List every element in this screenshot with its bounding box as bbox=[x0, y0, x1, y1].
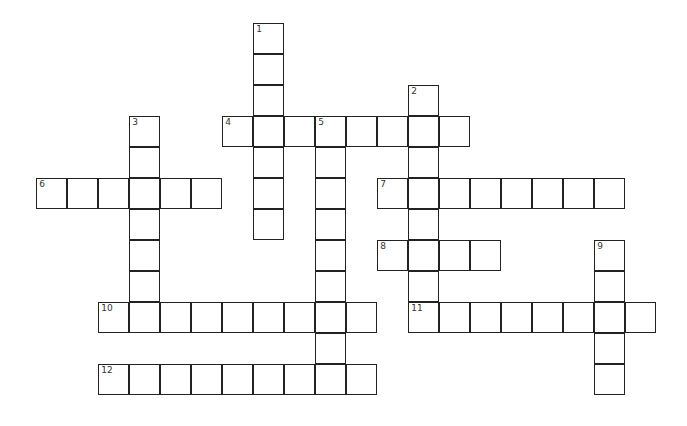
crossword-cell[interactable] bbox=[594, 364, 625, 395]
crossword-cell[interactable] bbox=[315, 240, 346, 271]
crossword-cell[interactable] bbox=[253, 147, 284, 178]
crossword-cell[interactable] bbox=[253, 209, 284, 240]
clue-number: 6 bbox=[39, 179, 45, 190]
clue-number: 10 bbox=[101, 303, 112, 314]
crossword-cell[interactable]: 1 bbox=[253, 23, 284, 54]
crossword-cell[interactable]: 3 bbox=[129, 116, 160, 147]
clue-number: 12 bbox=[101, 365, 112, 376]
crossword-cell[interactable] bbox=[439, 302, 470, 333]
crossword-cell[interactable] bbox=[253, 364, 284, 395]
crossword-cell[interactable] bbox=[439, 178, 470, 209]
crossword-cell[interactable] bbox=[315, 271, 346, 302]
crossword-cell[interactable] bbox=[160, 364, 191, 395]
crossword-cell[interactable] bbox=[532, 302, 563, 333]
crossword-cell[interactable]: 9 bbox=[594, 240, 625, 271]
crossword-cell[interactable] bbox=[501, 178, 532, 209]
crossword-cell[interactable] bbox=[439, 116, 470, 147]
clue-number: 2 bbox=[411, 86, 417, 97]
clue-number: 3 bbox=[132, 117, 138, 128]
crossword-cell[interactable] bbox=[191, 302, 222, 333]
crossword-cell[interactable] bbox=[377, 116, 408, 147]
crossword-cell[interactable] bbox=[594, 333, 625, 364]
crossword-cell[interactable] bbox=[408, 271, 439, 302]
crossword-cell[interactable] bbox=[470, 178, 501, 209]
clue-number: 7 bbox=[380, 179, 386, 190]
crossword-cell[interactable] bbox=[563, 178, 594, 209]
crossword-cell[interactable] bbox=[284, 302, 315, 333]
crossword-cell[interactable] bbox=[470, 302, 501, 333]
crossword-cell[interactable] bbox=[253, 54, 284, 85]
crossword-cell[interactable] bbox=[594, 302, 625, 333]
crossword-cell[interactable] bbox=[532, 178, 563, 209]
crossword-cell[interactable] bbox=[98, 178, 129, 209]
crossword-cell[interactable] bbox=[346, 302, 377, 333]
crossword-cell[interactable] bbox=[594, 178, 625, 209]
crossword-cell[interactable] bbox=[222, 302, 253, 333]
crossword-cell[interactable] bbox=[315, 333, 346, 364]
crossword-cell[interactable] bbox=[160, 302, 191, 333]
crossword-cell[interactable]: 2 bbox=[408, 85, 439, 116]
clue-number: 5 bbox=[318, 117, 324, 128]
crossword-cell[interactable] bbox=[501, 302, 532, 333]
crossword-cell[interactable] bbox=[315, 364, 346, 395]
crossword-cell[interactable]: 4 bbox=[222, 116, 253, 147]
crossword-cell[interactable] bbox=[129, 240, 160, 271]
crossword-cell[interactable] bbox=[129, 178, 160, 209]
clue-number: 4 bbox=[225, 117, 231, 128]
crossword-cell[interactable]: 10 bbox=[98, 302, 129, 333]
crossword-cell[interactable] bbox=[160, 178, 191, 209]
crossword-grid: 121134567891012 bbox=[0, 0, 687, 426]
crossword-cell[interactable] bbox=[346, 116, 377, 147]
crossword-cell[interactable] bbox=[408, 240, 439, 271]
crossword-cell[interactable] bbox=[191, 364, 222, 395]
crossword-cell[interactable] bbox=[315, 147, 346, 178]
crossword-cell[interactable] bbox=[129, 147, 160, 178]
crossword-cell[interactable] bbox=[408, 116, 439, 147]
clue-number: 8 bbox=[380, 241, 386, 252]
crossword-cell[interactable] bbox=[439, 240, 470, 271]
crossword-cell[interactable]: 8 bbox=[377, 240, 408, 271]
crossword-cell[interactable] bbox=[67, 178, 98, 209]
crossword-cell[interactable] bbox=[284, 116, 315, 147]
crossword-cell[interactable] bbox=[315, 302, 346, 333]
crossword-cell[interactable] bbox=[222, 364, 253, 395]
crossword-cell[interactable] bbox=[129, 364, 160, 395]
crossword-cell[interactable] bbox=[470, 240, 501, 271]
clue-number: 1 bbox=[256, 24, 262, 35]
clue-number: 9 bbox=[597, 241, 603, 252]
crossword-cell[interactable] bbox=[191, 178, 222, 209]
crossword-cell[interactable] bbox=[315, 178, 346, 209]
crossword-cell[interactable] bbox=[253, 116, 284, 147]
crossword-cell[interactable]: 7 bbox=[377, 178, 408, 209]
crossword-cell[interactable] bbox=[253, 85, 284, 116]
crossword-cell[interactable] bbox=[408, 178, 439, 209]
crossword-cell[interactable]: 5 bbox=[315, 116, 346, 147]
clue-number: 11 bbox=[411, 303, 422, 314]
crossword-cell[interactable]: 6 bbox=[36, 178, 67, 209]
crossword-cell[interactable] bbox=[284, 364, 315, 395]
crossword-cell[interactable]: 11 bbox=[408, 302, 439, 333]
crossword-cell[interactable] bbox=[129, 271, 160, 302]
crossword-cell[interactable] bbox=[563, 302, 594, 333]
crossword-cell[interactable]: 12 bbox=[98, 364, 129, 395]
crossword-cell[interactable] bbox=[253, 302, 284, 333]
crossword-cell[interactable] bbox=[346, 364, 377, 395]
crossword-cell[interactable] bbox=[625, 302, 656, 333]
crossword-cell[interactable] bbox=[408, 147, 439, 178]
crossword-cell[interactable] bbox=[408, 209, 439, 240]
crossword-cell[interactable] bbox=[315, 209, 346, 240]
crossword-cell[interactable] bbox=[129, 302, 160, 333]
crossword-cell[interactable] bbox=[594, 271, 625, 302]
crossword-cell[interactable] bbox=[253, 178, 284, 209]
crossword-cell[interactable] bbox=[129, 209, 160, 240]
